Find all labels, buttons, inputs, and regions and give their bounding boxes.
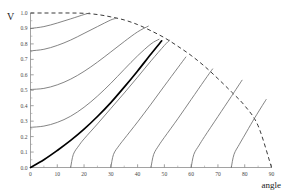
x-tick-label: 70 bbox=[215, 171, 221, 177]
y-tick-label: 0.7 bbox=[21, 56, 28, 62]
chart-curve-curve-1 bbox=[31, 13, 90, 28]
y-tick-label: 1.0 bbox=[21, 10, 28, 16]
y-axis-title: V bbox=[7, 11, 15, 22]
x-tick-label: 90 bbox=[269, 171, 275, 177]
y-tick-label: 0.6 bbox=[21, 72, 28, 78]
y-tick-label: 0.4 bbox=[21, 103, 28, 109]
chart-curve-curve-6 bbox=[71, 40, 170, 167]
x-tick-label: 50 bbox=[162, 171, 168, 177]
x-tick-label: 10 bbox=[54, 171, 60, 177]
x-tick-label: 20 bbox=[81, 171, 87, 177]
tick-labels-group: 01020304050607080900.00.10.20.30.40.50.6… bbox=[21, 10, 275, 177]
y-tick-label: 0.2 bbox=[21, 134, 28, 140]
chart-figure: 01020304050607080900.00.10.20.30.40.50.6… bbox=[0, 0, 284, 191]
plot-area: 01020304050607080900.00.10.20.30.40.50.6… bbox=[0, 0, 284, 191]
x-tick-label: 0 bbox=[29, 171, 32, 177]
chart-curve-curve-2 bbox=[31, 18, 117, 50]
curves-group bbox=[31, 13, 272, 168]
chart-curve-curve-7 bbox=[111, 57, 186, 167]
y-tick-label: 0.3 bbox=[21, 118, 28, 124]
y-tick-label: 0.0 bbox=[21, 165, 28, 171]
y-tick-label: 0.8 bbox=[21, 41, 28, 47]
y-tick-label: 0.9 bbox=[21, 25, 28, 31]
x-tick-label: 80 bbox=[242, 171, 248, 177]
x-tick-label: 60 bbox=[188, 171, 194, 177]
y-tick-label: 0.1 bbox=[21, 149, 28, 155]
x-tick-label: 40 bbox=[135, 171, 141, 177]
x-tick-label: 30 bbox=[108, 171, 114, 177]
chart-curve-curve-8 bbox=[151, 69, 213, 168]
chart-curve-curve-4 bbox=[31, 39, 160, 127]
y-tick-label: 0.5 bbox=[21, 87, 28, 93]
x-axis-title: angle bbox=[262, 180, 282, 190]
chart-curve-curve-5-highlight bbox=[31, 41, 162, 168]
